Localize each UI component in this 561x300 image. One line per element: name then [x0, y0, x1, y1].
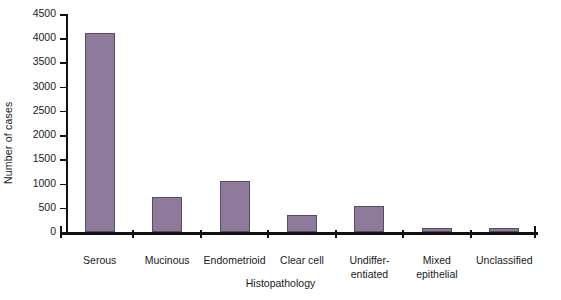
x-axis-title: Histopathology	[0, 277, 561, 289]
x-tick	[402, 230, 404, 238]
bar	[489, 228, 519, 232]
bar	[422, 228, 452, 232]
y-tick: 3000	[60, 87, 67, 89]
y-tick: 1000	[60, 184, 67, 186]
bar	[354, 206, 384, 232]
y-tick-label: 3000	[33, 80, 56, 93]
y-tick-label: 500	[38, 201, 56, 214]
x-tick	[470, 230, 472, 238]
bar	[85, 33, 115, 232]
y-tick: 2500	[60, 111, 67, 113]
y-tick-label: 2500	[33, 104, 56, 117]
y-tick-label: 0	[50, 225, 56, 238]
y-tick-label: 1000	[33, 177, 56, 190]
x-tick-label: Clear cell	[268, 254, 335, 268]
y-tick-label: 2000	[33, 128, 56, 141]
x-axis-start-cap	[60, 226, 62, 238]
x-tick-label: Unclassified	[471, 254, 538, 268]
x-axis-end-cap	[534, 226, 536, 238]
y-tick: 500	[60, 208, 67, 210]
y-tick: 1500	[60, 159, 67, 161]
y-tick: 4500	[60, 14, 67, 16]
y-tick-label: 3500	[33, 55, 56, 68]
x-tick-label: Mucinous	[133, 254, 200, 268]
x-tick-label: Endometrioid	[201, 254, 268, 268]
x-tick	[267, 230, 269, 238]
y-tick: 4000	[60, 38, 67, 40]
y-tick-label: 4500	[33, 7, 56, 20]
x-tick-label: Serous	[66, 254, 133, 268]
bar	[220, 181, 250, 232]
x-tick	[335, 230, 337, 238]
x-tick	[200, 230, 202, 238]
y-tick-label: 1500	[33, 152, 56, 165]
y-tick-label: 4000	[33, 31, 56, 44]
y-axis-title: Number of cases	[2, 0, 18, 184]
bar	[287, 215, 317, 232]
x-tick	[132, 230, 134, 238]
y-axis-line	[66, 14, 68, 233]
y-tick: 3500	[60, 62, 67, 64]
y-tick: 2000	[60, 135, 67, 137]
bar-chart: Number of cases 050010001500200025003000…	[0, 0, 561, 300]
plot-area: 050010001500200025003000350040004500 Ser…	[66, 14, 538, 232]
bar	[152, 197, 182, 232]
